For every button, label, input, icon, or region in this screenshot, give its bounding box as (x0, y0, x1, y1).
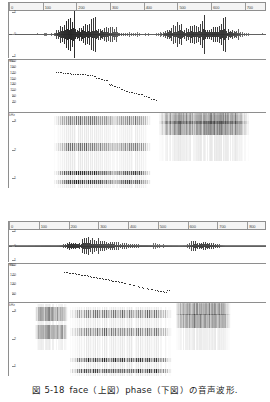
y-axis-tick (12, 12, 15, 13)
y-axis-tick (12, 275, 15, 276)
waveform-trace-phase (9, 230, 266, 262)
spectrogram-band (230, 314, 231, 328)
pitch-plot-face: 2001901701501301109070 Hz (8, 59, 266, 112)
pitch-point (136, 93, 137, 94)
axis-tick (211, 3, 212, 10)
waveform-plot-phase: 10-1 (8, 230, 266, 262)
pitch-point (139, 94, 140, 95)
pitch-point (169, 290, 170, 291)
pitch-point (71, 74, 72, 75)
axis-tick (98, 222, 99, 229)
axis-tick (39, 222, 40, 229)
pitch-point (148, 289, 149, 290)
pitch-point (68, 73, 69, 74)
pitch-plot-phase: 20017013090 Hz (8, 263, 266, 302)
pitch-point (88, 75, 89, 76)
spectrogram-haze (132, 117, 133, 188)
spectrogram-band (67, 307, 68, 321)
pitch-point (85, 74, 86, 75)
pitch-point (166, 292, 167, 293)
figure-number: 図 5-18 (32, 385, 64, 395)
spectrogram-haze (82, 117, 83, 188)
pitch-contour-face (9, 60, 266, 112)
y-axis-tick (12, 96, 15, 97)
axis-tick (43, 3, 44, 10)
spectrogram-image-phase (9, 303, 266, 376)
figure-caption: 図 5-18face（上図）phase（下図）の音声波形. (0, 383, 270, 395)
y-axis-tick (12, 366, 15, 367)
spectrogram-haze (110, 117, 111, 188)
axis-tick (245, 3, 246, 10)
pitch-point (65, 73, 66, 74)
y-axis-tick (12, 34, 15, 35)
spectrogram-haze (102, 117, 103, 188)
spectrogram-band (230, 303, 231, 315)
spectrogram-unit-label-top: kHz (9, 113, 15, 117)
y-axis-tick (12, 339, 15, 340)
y-axis-tick (12, 178, 15, 179)
axis-tick (188, 222, 189, 229)
y-axis-tick (12, 311, 15, 312)
y-axis-tick (12, 231, 15, 232)
pitch-point (153, 99, 154, 100)
axis-tick (110, 3, 111, 10)
waveform-sample (265, 245, 266, 246)
y-axis-tick (12, 67, 15, 68)
panel-phase: 0100200300400500600700800 10-1 200170130… (0, 221, 270, 376)
pitch-point (142, 94, 143, 95)
y-axis-tick (12, 73, 15, 74)
axis-tick (247, 222, 248, 229)
waveform-plot-face: 10-1 (8, 11, 266, 58)
y-axis-tick (12, 150, 15, 151)
speech-waveform-figure: 0100200300400500600700 10-1 200190170150… (0, 0, 270, 402)
axis-tick (76, 3, 77, 10)
y-axis-tick (12, 294, 15, 295)
pitch-contour-phase (9, 264, 266, 302)
pitch-point (134, 285, 135, 286)
pitch-point (130, 284, 131, 285)
waveform-trace-face (9, 11, 266, 58)
pitch-unit-label-bottom: Hz (9, 263, 13, 267)
waveform-sample (265, 34, 266, 36)
pitch-point (139, 287, 140, 288)
pitch-point (82, 74, 83, 75)
pitch-point (122, 89, 123, 90)
y-axis-tick (12, 90, 15, 91)
axis-tick (9, 3, 10, 10)
y-axis-tick (12, 102, 15, 103)
axis-tick (144, 3, 145, 10)
axis-tick (158, 222, 159, 229)
panel-face: 0100200300400500600700 10-1 200190170150… (0, 2, 270, 188)
spectrogram-haze (117, 117, 118, 188)
spectrogram-haze (146, 117, 147, 188)
spectrogram-plot-phase: 321 kHz (8, 302, 266, 376)
spectrogram-haze (92, 117, 93, 188)
axis-tick (69, 222, 70, 229)
pitch-point (125, 283, 126, 284)
time-axis-top: 0100200300400500600700 (8, 2, 266, 11)
pitch-point (156, 100, 157, 101)
spectrogram-unit-label-bottom: kHz (9, 303, 15, 307)
spectrogram-haze (88, 117, 89, 188)
axis-tick (128, 222, 129, 229)
pitch-point (61, 72, 62, 73)
pitch-point (143, 288, 144, 289)
figure-caption-text: face（上図）phase（下図）の音声波形. (70, 385, 238, 395)
spectrogram-haze (114, 117, 115, 188)
pitch-unit-label-top: Hz (9, 59, 13, 63)
y-axis-tick (12, 246, 15, 247)
pitch-point (126, 91, 127, 92)
axis-tick (9, 222, 10, 229)
y-axis-tick (12, 84, 15, 85)
spectrogram-haze (75, 117, 76, 188)
y-axis-tick (12, 79, 15, 80)
pitch-point (152, 289, 153, 290)
pitch-point (95, 76, 96, 77)
y-axis-tick (12, 284, 15, 285)
spectrogram-band (67, 325, 68, 339)
axis-tick (217, 222, 218, 229)
axis-tick (177, 3, 178, 10)
pitch-point (119, 87, 120, 88)
y-axis-tick (12, 121, 15, 122)
spectrogram-plot-face: 321 kHz (8, 112, 266, 188)
